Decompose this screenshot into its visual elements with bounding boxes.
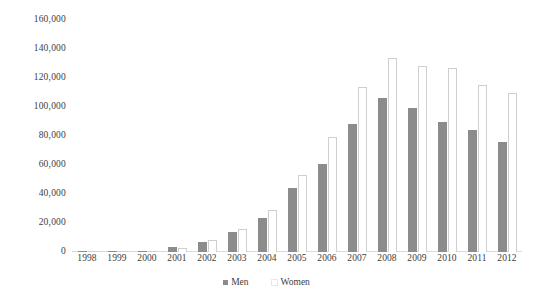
bar-group (372, 20, 402, 252)
bar-men[interactable] (348, 124, 357, 252)
bar-group (222, 20, 252, 252)
bar-men[interactable] (198, 242, 207, 252)
men-swatch-icon (223, 280, 228, 285)
bar-group (252, 20, 282, 252)
y-tick-label: 40,000 (39, 189, 66, 199)
y-tick-label: 60,000 (39, 160, 66, 170)
y-tick-label: 20,000 (39, 218, 66, 228)
bar-men[interactable] (438, 122, 447, 253)
x-tick-label: 2004 (252, 254, 282, 272)
bar-men[interactable] (78, 251, 87, 252)
x-tick-label: 2005 (282, 254, 312, 272)
x-tick-label: 2012 (492, 254, 522, 272)
x-tick-label: 2010 (432, 254, 462, 272)
bar-men[interactable] (378, 98, 387, 252)
bar-women[interactable] (178, 248, 187, 252)
bar-women[interactable] (238, 229, 247, 252)
y-tick-label: 120,000 (34, 73, 66, 83)
legend-item[interactable]: Women (271, 278, 310, 288)
bar-group (342, 20, 372, 252)
bar-women[interactable] (118, 251, 127, 252)
x-axis: 1998199920002001200220032004200520062007… (72, 254, 522, 272)
x-tick-label: 2003 (222, 254, 252, 272)
x-tick-label: 2000 (132, 254, 162, 272)
bar-men[interactable] (228, 232, 237, 252)
women-swatch-icon (271, 279, 278, 286)
bar-group (432, 20, 462, 252)
y-tick-label: 140,000 (34, 44, 66, 54)
bar-women[interactable] (478, 85, 487, 252)
bar-women[interactable] (388, 58, 397, 252)
bar-group (282, 20, 312, 252)
bar-group (492, 20, 522, 252)
x-tick-label: 2001 (162, 254, 192, 272)
bar-women[interactable] (298, 175, 307, 252)
y-tick-label: 80,000 (39, 131, 66, 141)
bar-women[interactable] (448, 68, 457, 252)
bar-women[interactable] (328, 137, 337, 252)
bar-men[interactable] (168, 247, 177, 252)
y-tick-label: 160,000 (34, 15, 66, 25)
bar-men[interactable] (138, 251, 147, 252)
bar-group (462, 20, 492, 252)
y-tick-label: 100,000 (34, 102, 66, 112)
x-tick-label: 2002 (192, 254, 222, 272)
bar-women[interactable] (358, 87, 367, 252)
legend-item[interactable]: Men (223, 278, 248, 288)
bar-groups (72, 20, 522, 252)
bar-women[interactable] (418, 66, 427, 252)
bar-group (192, 20, 222, 252)
bar-men[interactable] (408, 108, 417, 252)
bar-men[interactable] (318, 164, 327, 252)
bar-group (162, 20, 192, 252)
bar-men[interactable] (258, 218, 267, 252)
bar-group (402, 20, 432, 252)
bar-chart: 020,00040,00060,00080,000100,000120,0001… (0, 0, 533, 304)
bar-men[interactable] (468, 130, 477, 252)
bar-women[interactable] (268, 210, 277, 252)
bar-group (72, 20, 102, 252)
bar-women[interactable] (508, 93, 517, 253)
bar-men[interactable] (498, 142, 507, 252)
bar-men[interactable] (288, 188, 297, 252)
plot-area (72, 20, 522, 252)
x-tick-label: 2008 (372, 254, 402, 272)
legend-label: Men (231, 278, 248, 288)
x-tick-label: 2007 (342, 254, 372, 272)
x-tick-label: 2009 (402, 254, 432, 272)
legend-label: Women (281, 278, 310, 288)
y-axis: 020,00040,00060,00080,000100,000120,0001… (0, 0, 72, 304)
bar-women[interactable] (148, 251, 157, 252)
bar-women[interactable] (88, 251, 97, 252)
y-tick-label: 0 (61, 247, 66, 257)
chart-legend: MenWomen (0, 278, 533, 288)
bar-men[interactable] (108, 251, 117, 252)
x-tick-label: 1999 (102, 254, 132, 272)
x-tick-label: 2006 (312, 254, 342, 272)
x-tick-label: 2011 (462, 254, 492, 272)
bar-women[interactable] (208, 240, 217, 252)
bar-group (102, 20, 132, 252)
bar-group (312, 20, 342, 252)
x-tick-label: 1998 (72, 254, 102, 272)
bar-group (132, 20, 162, 252)
